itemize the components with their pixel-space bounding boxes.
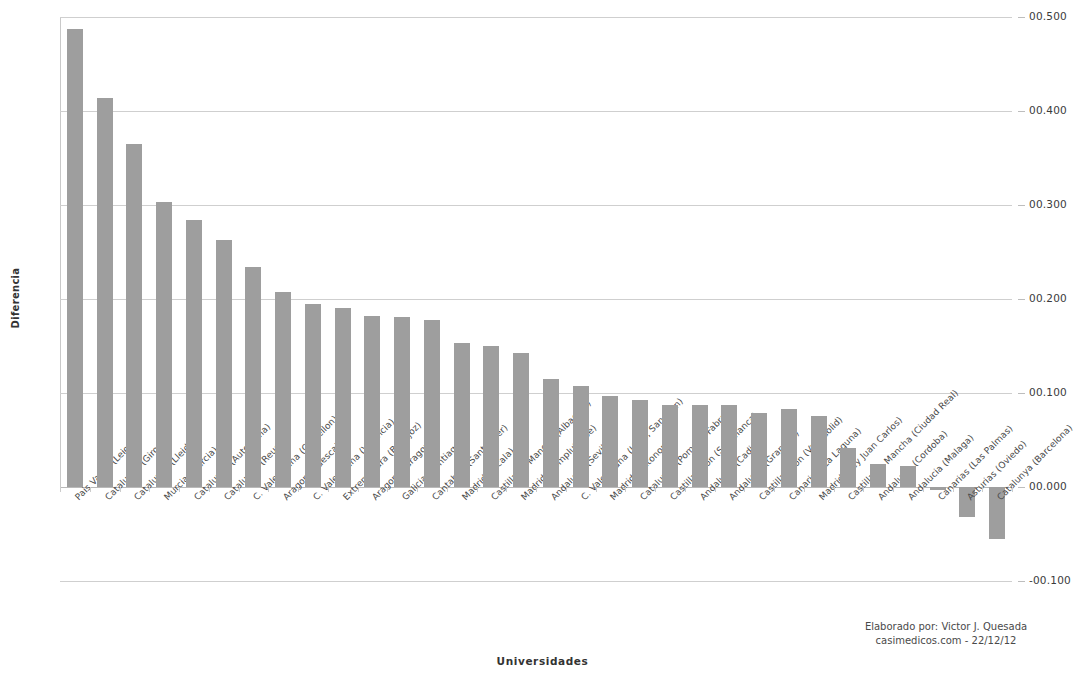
x-axis-tick (744, 487, 745, 492)
bar (692, 405, 708, 487)
bar (811, 416, 827, 487)
bar (97, 98, 113, 487)
x-axis-tick (923, 487, 924, 492)
x-axis-tick (477, 487, 478, 492)
bar (840, 448, 856, 487)
x-axis-tick (298, 487, 299, 492)
x-axis-tick (358, 487, 359, 492)
y-axis-tick-label: 00.200 (1029, 292, 1067, 304)
y-axis-tick-label: 00.100 (1029, 386, 1067, 398)
x-axis-tick (447, 487, 448, 492)
bar (335, 308, 351, 487)
x-axis-tick (774, 487, 775, 492)
x-axis-tick (179, 487, 180, 492)
bar (573, 386, 589, 487)
y-axis-tick (1018, 17, 1025, 18)
bar (305, 304, 321, 487)
gridline (60, 393, 1012, 394)
bar (186, 220, 202, 487)
x-axis-tick (328, 487, 329, 492)
bar (216, 240, 232, 487)
x-axis-tick (417, 487, 418, 492)
y-axis-tick-label: 00.500 (1029, 10, 1067, 22)
x-axis-tick (60, 487, 61, 492)
x-axis-tick (506, 487, 507, 492)
x-axis-tick (268, 487, 269, 492)
bar (275, 292, 291, 487)
bar (543, 379, 559, 487)
x-axis-tick (863, 487, 864, 492)
bar (602, 396, 618, 487)
x-axis-tick (685, 487, 686, 492)
credit-author: Elaborado por: Victor J. Quesada (815, 620, 1077, 634)
y-axis-tick (1018, 205, 1025, 206)
bar (751, 413, 767, 487)
x-axis-tick (1012, 487, 1013, 492)
x-axis-tick (953, 487, 954, 492)
x-axis-tick (625, 487, 626, 492)
gridline (60, 581, 1012, 582)
x-axis-tick (149, 487, 150, 492)
y-axis-tick (1018, 393, 1025, 394)
bar (721, 405, 737, 487)
x-axis-tick (566, 487, 567, 492)
bar (424, 320, 440, 487)
x-axis-title: Universidades (0, 655, 1085, 667)
x-axis-tick (893, 487, 894, 492)
x-axis-tick (209, 487, 210, 492)
y-axis-tick (1018, 299, 1025, 300)
bar (126, 144, 142, 487)
x-axis-tick (536, 487, 537, 492)
gridline (60, 205, 1012, 206)
y-axis-tick-label: 00.400 (1029, 104, 1067, 116)
bar (156, 202, 172, 487)
x-axis-tick (804, 487, 805, 492)
x-axis-tick (90, 487, 91, 492)
bar (900, 466, 916, 487)
gridline (60, 299, 1012, 300)
x-axis-tick (120, 487, 121, 492)
bar (364, 316, 380, 487)
credit-source: casimedicos.com - 22/12/12 (815, 634, 1077, 648)
bar (245, 267, 261, 487)
bar (662, 405, 678, 487)
bar (632, 400, 648, 487)
y-axis-tick-label: 00.000 (1029, 480, 1067, 492)
bar (513, 353, 529, 487)
plot-area (60, 17, 1012, 587)
bar (781, 409, 797, 487)
x-axis-tick (387, 487, 388, 492)
bar (483, 346, 499, 487)
bar (870, 464, 886, 488)
gridline (60, 17, 1012, 18)
chart-credit: Elaborado por: Victor J. Quesada casimed… (815, 620, 1077, 648)
bar (454, 343, 470, 487)
y-axis-tick-label: 00.300 (1029, 198, 1067, 210)
y-axis-tick (1018, 111, 1025, 112)
x-axis-tick (655, 487, 656, 492)
bar (67, 29, 83, 487)
x-axis-tick (239, 487, 240, 492)
y-axis-tick (1018, 487, 1025, 488)
bar-chart: Diferencia Universidades Elaborado por: … (0, 0, 1085, 674)
gridline (60, 111, 1012, 112)
x-axis-tick (715, 487, 716, 492)
y-axis-title: Diferencia (10, 238, 21, 358)
y-axis-tick-label: -00.100 (1029, 574, 1071, 586)
bar (394, 317, 410, 487)
x-axis-tick (982, 487, 983, 492)
x-axis-tick (834, 487, 835, 492)
y-axis-tick (1018, 581, 1025, 582)
x-axis-tick (596, 487, 597, 492)
